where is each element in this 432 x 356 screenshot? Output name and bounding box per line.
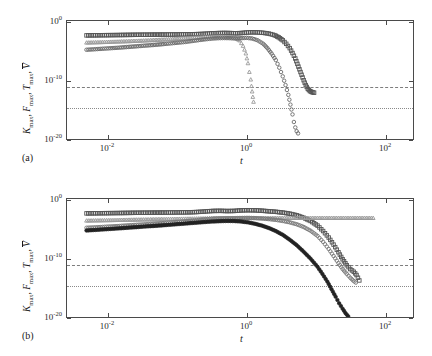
x-tick-b-1-t <box>247 199 248 203</box>
x-tick-label-a-1: 100 <box>240 143 252 153</box>
x-tick-label-b-2: 102 <box>379 321 391 331</box>
data-series-group-a <box>67 21 413 139</box>
y-tick-a-0-r <box>409 22 413 23</box>
y-tick-b-2-r <box>409 318 413 319</box>
y-tick-b-0-r <box>409 200 413 201</box>
figure-root: Kmax, Fmax, Tmax, V 100 10-10 10-20 <box>0 0 432 356</box>
y-tick-a-2-r <box>409 140 413 141</box>
x-tick-a-0-t <box>108 21 109 25</box>
data-series-group-b <box>67 199 413 317</box>
x-tick-label-a-2: 102 <box>379 143 391 153</box>
plot-frame-b <box>66 198 414 318</box>
panel-a: Kmax, Fmax, Tmax, V 100 10-10 10-20 <box>0 0 432 178</box>
y-tick-b-1 <box>67 259 71 260</box>
x-tick-b-2 <box>386 313 387 317</box>
y-title-vbar-b: V <box>22 241 33 247</box>
y-title-sub-k-b: max <box>27 294 34 305</box>
y-title-sub-f-b: max <box>27 273 34 284</box>
x-tick-a-1 <box>247 135 248 139</box>
y-tick-a-0 <box>67 22 71 23</box>
y-tick-b-0 <box>67 200 71 201</box>
x-tick-b-0 <box>108 313 109 317</box>
y-axis-title-a: Kmax, Fmax, Tmax, V <box>22 63 33 134</box>
panel-label-a: (a) <box>22 152 33 163</box>
y-tick-b-2 <box>67 318 71 319</box>
y-title-sub-f: max <box>27 95 34 106</box>
plot-area-a <box>67 21 413 139</box>
y-tick-label-a-0: 100 <box>30 16 62 26</box>
y-tick-b-1-r <box>409 259 413 260</box>
x-tick-label-a-0: 10-2 <box>100 143 114 153</box>
plot-frame-a <box>66 20 414 140</box>
x-tick-a-0 <box>108 135 109 139</box>
panel-b: Kmax, Fmax, Tmax, V 100 10-10 10-20 <box>0 178 432 356</box>
y-axis-title-b: Kmax, Fmax, Tmax, V <box>22 241 33 312</box>
x-axis-title-b: t <box>240 333 243 344</box>
y-tick-a-1 <box>67 81 71 82</box>
y-tick-label-a-2: 10-20 <box>24 134 62 144</box>
y-tick-a-1-r <box>409 81 413 82</box>
x-tick-label-b-0: 10-2 <box>100 321 114 331</box>
x-tick-b-0-t <box>108 199 109 203</box>
series-v-bar <box>85 219 350 317</box>
x-tick-b-1 <box>247 313 248 317</box>
plot-area-b <box>67 199 413 317</box>
y-tick-label-a-1: 10-10 <box>24 75 62 85</box>
x-tick-b-2-t <box>386 199 387 203</box>
series-t-max <box>85 36 300 135</box>
y-title-vbar: V <box>22 63 33 69</box>
y-tick-label-b-1: 10-10 <box>24 253 62 263</box>
x-tick-a-2 <box>386 135 387 139</box>
y-tick-label-b-2: 10-20 <box>24 312 62 322</box>
panel-label-b: (b) <box>22 330 34 341</box>
x-tick-label-b-1: 100 <box>240 321 252 331</box>
y-tick-label-b-0: 100 <box>30 194 62 204</box>
y-tick-a-2 <box>67 140 71 141</box>
y-title-sub-k: max <box>27 116 34 127</box>
x-tick-a-1-t <box>247 21 248 25</box>
x-axis-title-a: t <box>240 155 243 166</box>
x-tick-a-2-t <box>386 21 387 25</box>
